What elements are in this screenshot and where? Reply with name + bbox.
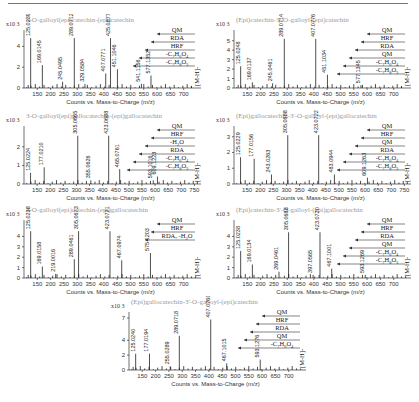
peak-label: 245.0495	[57, 57, 63, 80]
spectrum-panel-7: x10 3(Epi)gallocatechin-3'-O-galloyl-(ep…	[107, 296, 312, 388]
fragment-annotation: QM	[382, 138, 393, 145]
svg-text:200: 200	[45, 187, 56, 193]
peak-label: 125.0224	[25, 148, 31, 171]
svg-text:250: 250	[59, 281, 70, 287]
svg-text:500: 500	[334, 187, 345, 193]
svg-text:350: 350	[296, 281, 307, 287]
spectrum-panel-1: x10 33-O-galloyl(epi)catechin-(epi)catec…	[2, 14, 207, 106]
peak-label: 245.0461	[267, 58, 273, 81]
svg-text:700: 700	[386, 187, 397, 193]
svg-text:700: 700	[389, 91, 400, 97]
peak-label: 169.0145	[36, 40, 42, 63]
peak-label: 177.0210	[38, 142, 44, 165]
svg-text:2: 2	[17, 144, 21, 150]
peak-label: 329.0584	[79, 59, 85, 82]
svg-text:550: 550	[347, 187, 358, 193]
svg-text:4: 4	[227, 47, 231, 53]
spectrum-panel-2: x10 3(Epi)catechin-3'-O-galloyl-(epi)cat…	[212, 14, 417, 106]
svg-text:450: 450	[217, 373, 228, 379]
svg-text:650: 650	[165, 91, 176, 97]
svg-text:0: 0	[227, 275, 231, 281]
svg-text:3: 3	[17, 244, 21, 250]
svg-text:0: 0	[17, 85, 21, 91]
svg-text:3: 3	[227, 244, 231, 250]
spectrum-panel-4: x10 3(Epi)gallocatechin-3'-O-galloyl-(ep…	[212, 110, 417, 202]
svg-text:2: 2	[17, 64, 21, 70]
svg-text:150: 150	[242, 187, 253, 193]
spectrum-panel-6: x10 3(Epi)catechin-3'-O-galloyl-(epi)gal…	[212, 204, 417, 296]
svg-text:7: 7	[122, 315, 126, 321]
peak-label: 169.0134	[246, 240, 252, 263]
fragment-annotation: QM	[382, 216, 393, 223]
svg-text:600: 600	[152, 91, 163, 97]
svg-text:500: 500	[124, 187, 135, 193]
fragment-annotation: HRF	[381, 130, 394, 137]
peak-label: 125.0239	[25, 14, 31, 36]
svg-text:500: 500	[335, 281, 346, 287]
panel-title: 3-O-galloyl(epi)catechin-(epi)catechin	[26, 16, 135, 24]
peak-label: 541.1156	[135, 59, 141, 82]
x-axis-label: Counts vs. Mass-to-Charge (m/z)	[66, 195, 154, 201]
svg-text:2: 2	[122, 352, 126, 358]
svg-text:200: 200	[46, 281, 57, 287]
panel-title: 3-O-galloyl(epi)catechin-(epi)gallocatec…	[26, 206, 149, 214]
svg-text:150: 150	[137, 373, 148, 379]
svg-text:1: 1	[227, 76, 231, 82]
fragment-annotation: QM	[382, 240, 393, 247]
svg-text:500: 500	[125, 91, 136, 97]
peak-label: 219.0016	[50, 249, 56, 272]
fragment-annotation: -C7 H8 O3	[376, 162, 399, 171]
svg-text:350: 350	[86, 281, 97, 287]
y-scale-label: x10 3	[216, 21, 230, 27]
svg-text:150: 150	[32, 91, 43, 97]
svg-text:0: 0	[122, 367, 126, 373]
peak-label: 125.0229	[235, 132, 241, 155]
svg-text:400: 400	[204, 373, 215, 379]
y-scale-label: x10 3	[6, 117, 20, 123]
svg-text:650: 650	[270, 373, 281, 379]
fragment-annotation: -C7 H8 O3	[376, 66, 399, 75]
svg-text:2: 2	[17, 254, 21, 260]
svg-text:550: 550	[139, 91, 150, 97]
y-scale-label: x10 3	[6, 21, 20, 27]
spectrum-panel-3: x10 33-O-galloyl(epi)gallocatechin-(epi)…	[2, 110, 207, 202]
fragment-annotation: QM	[382, 50, 393, 57]
svg-text:250: 250	[269, 281, 280, 287]
svg-text:200: 200	[255, 187, 266, 193]
x-axis-label: Counts vs. Mass-to-Charge (m/z)	[276, 195, 364, 201]
svg-text:1: 1	[17, 265, 21, 271]
fragment-annotation: QM	[382, 26, 393, 33]
peak-label: 593.1276	[254, 335, 260, 358]
y-scale-label: x10 3	[216, 117, 230, 123]
y-scale-label: x10 3	[6, 211, 20, 217]
svg-text:0: 0	[227, 85, 231, 91]
peak-label: 243.0263	[265, 150, 271, 173]
svg-text:650: 650	[375, 91, 386, 97]
fragment-annotation: HRF	[171, 42, 184, 49]
peak-label: 289.0718	[173, 311, 179, 334]
svg-text:4: 4	[227, 233, 231, 239]
svg-text:400: 400	[309, 91, 320, 97]
svg-text:400: 400	[308, 187, 319, 193]
svg-text:150: 150	[242, 281, 253, 287]
svg-text:200: 200	[256, 281, 267, 287]
peak-label: 177.0194	[143, 329, 149, 352]
fragment-annotation: RDA, -H2 O	[162, 232, 193, 241]
svg-text:350: 350	[85, 187, 96, 193]
peak-label: 467.1001	[326, 244, 332, 267]
panel-title: (Epi)gallocatechin-3'-O-galloyl-(epi)cat…	[131, 298, 258, 306]
svg-text:150: 150	[32, 281, 43, 287]
svg-text:0: 0	[17, 181, 21, 187]
svg-text:300: 300	[282, 281, 293, 287]
peak-label: 423.0722	[313, 110, 319, 133]
fragment-annotation: QM	[382, 122, 393, 129]
svg-text:2: 2	[227, 254, 231, 260]
svg-text:500: 500	[125, 281, 136, 287]
svg-text:3: 3	[227, 57, 231, 63]
svg-text:650: 650	[375, 281, 386, 287]
svg-text:350: 350	[86, 91, 97, 97]
svg-text:200: 200	[151, 373, 162, 379]
peak-label: 577.1345	[355, 60, 361, 83]
x-axis-label: Counts vs. Mass-to-Charge (m/z)	[66, 99, 154, 105]
peak-label: 125.0240	[130, 329, 136, 352]
